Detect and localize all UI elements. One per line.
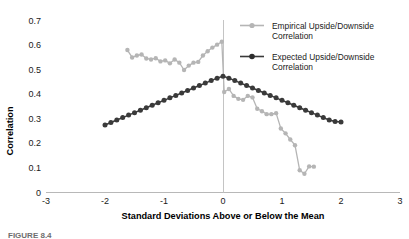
data-point [327, 118, 332, 123]
data-point [256, 88, 261, 93]
data-point [339, 120, 344, 125]
data-point [231, 94, 235, 98]
x-tick-label: 2 [338, 196, 343, 206]
data-point [303, 108, 308, 113]
data-point [126, 113, 131, 118]
data-point [274, 111, 278, 115]
data-point [144, 56, 148, 60]
data-point [201, 53, 205, 57]
data-point [150, 103, 155, 108]
data-point [279, 126, 283, 130]
y-tick-label: 0.1 [28, 163, 41, 173]
correlation-line-chart: 0.7 0.6 0.5 0.4 0.3 0.2 0.1 0 Correlatio… [0, 0, 409, 239]
y-axis-title: Correlation [5, 106, 15, 155]
data-point [241, 98, 245, 102]
x-tick-label: -1 [160, 196, 168, 206]
data-point [156, 100, 161, 105]
data-point [285, 100, 290, 105]
data-point [333, 119, 338, 124]
legend-item-expected[interactable]: Expected Upside/Downside Correlation [240, 52, 375, 73]
data-point [197, 83, 202, 88]
data-point [283, 131, 287, 135]
data-point [154, 56, 158, 60]
data-point [179, 90, 184, 95]
data-point [149, 57, 153, 61]
data-point [103, 122, 108, 127]
data-point [250, 95, 254, 99]
data-point [255, 107, 259, 111]
data-point [302, 172, 306, 176]
data-point [168, 61, 172, 65]
x-axis-tick-labels: -3 -2 -1 0 1 2 3 [42, 196, 403, 206]
data-point [114, 118, 119, 123]
data-point [203, 81, 208, 86]
legend-label-expected-line1: Expected Upside/Downside [272, 52, 375, 62]
data-point [205, 49, 209, 53]
data-point [144, 105, 149, 110]
data-point [196, 60, 200, 64]
data-point [268, 93, 273, 98]
data-point [238, 81, 243, 86]
x-tick-label: -3 [42, 196, 50, 206]
y-tick-label: 0.5 [28, 65, 41, 75]
data-point [108, 120, 113, 125]
x-tick-label: 3 [397, 196, 402, 206]
data-point [291, 103, 296, 108]
data-point [163, 58, 167, 62]
data-point [130, 55, 134, 59]
legend-item-empirical[interactable]: Empirical Upside/Downside Correlation [240, 21, 374, 42]
data-point [173, 93, 178, 98]
data-point [215, 76, 220, 81]
data-point [220, 39, 224, 43]
data-point [232, 78, 237, 83]
x-tick-label: 1 [279, 196, 284, 206]
data-point [191, 60, 195, 64]
data-point [260, 109, 264, 113]
data-point [293, 143, 297, 147]
x-tick-label: -2 [101, 196, 109, 206]
data-point [209, 78, 214, 83]
data-point [226, 76, 231, 81]
y-tick-label: 0.4 [28, 89, 41, 99]
data-point [125, 48, 129, 52]
y-tick-label: 0.7 [28, 16, 41, 26]
data-point [167, 95, 172, 100]
data-point [210, 45, 214, 49]
data-point [222, 90, 226, 94]
legend-marker-empirical [249, 23, 254, 28]
data-point [177, 60, 181, 64]
y-tick-label: 0 [36, 188, 41, 198]
data-point [307, 164, 311, 168]
data-point [135, 53, 139, 57]
data-point [139, 52, 143, 56]
legend-label-expected-line2: Correlation [272, 62, 313, 72]
chart-legend: Empirical Upside/Downside Correlation Ex… [240, 21, 375, 73]
x-tick-label: 0 [220, 196, 225, 206]
data-point [297, 105, 302, 110]
y-tick-label: 0.6 [28, 40, 41, 50]
data-point [221, 74, 226, 79]
data-point [274, 95, 279, 100]
y-tick-label: 0.3 [28, 114, 41, 124]
data-point [298, 168, 302, 172]
legend-label-empirical-line1: Empirical Upside/Downside [272, 21, 374, 31]
data-point [321, 115, 326, 120]
data-point [215, 42, 219, 46]
legend-label-empirical-line2: Correlation [272, 31, 313, 41]
data-point [269, 112, 273, 116]
data-point [138, 108, 143, 113]
data-point [120, 115, 125, 120]
data-point [288, 137, 292, 141]
data-point [162, 98, 167, 103]
data-point [250, 86, 255, 91]
data-point [236, 97, 240, 101]
x-axis-title: Standard Deviations Above or Below the M… [122, 211, 325, 221]
axes-group [46, 20, 400, 193]
data-point [227, 87, 231, 91]
y-tick-label: 0.2 [28, 138, 41, 148]
data-point [132, 110, 137, 115]
data-point [280, 98, 285, 103]
figure-caption: FIGURE 8.4 [8, 231, 52, 239]
data-point [182, 68, 186, 72]
data-point [187, 63, 191, 67]
